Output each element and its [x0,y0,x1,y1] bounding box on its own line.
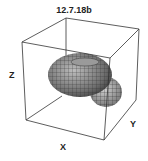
x-axis-label: X [60,142,66,152]
surface-torus [48,53,112,97]
plot-3d [0,0,148,161]
z-axis-label: Z [9,70,15,80]
y-axis-label: Y [130,119,136,129]
